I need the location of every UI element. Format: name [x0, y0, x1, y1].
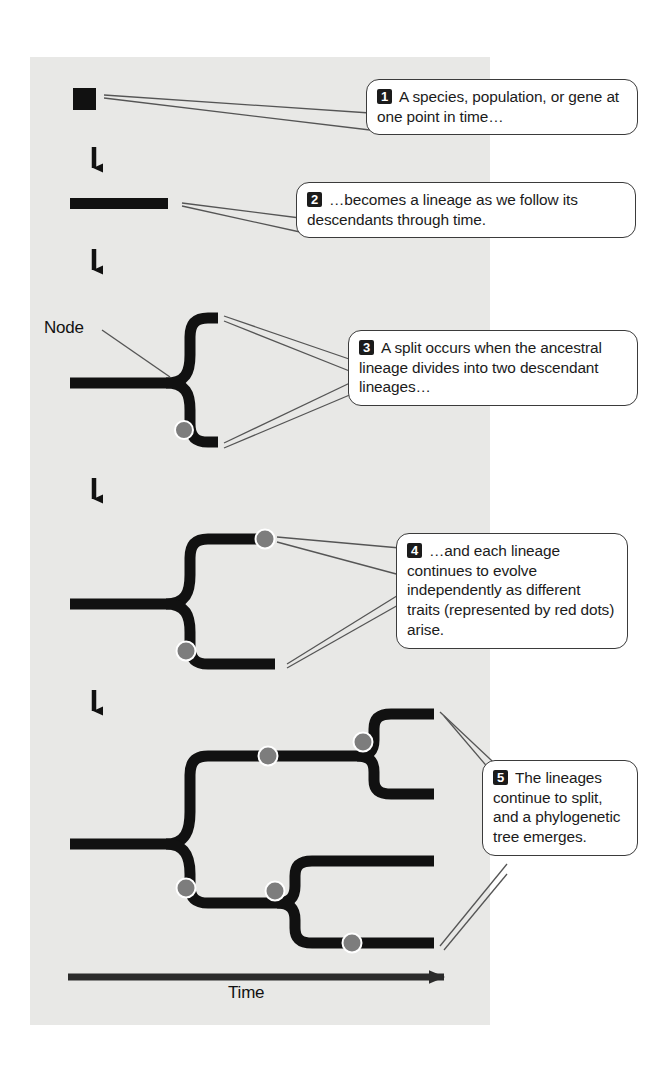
- callout-2-badge: 2: [307, 192, 322, 207]
- descendant-lineage-upper: [166, 318, 218, 383]
- stage-4-trait-evolution: [70, 539, 275, 664]
- trait-dot: [177, 879, 196, 898]
- leader-line: [224, 394, 352, 448]
- leader-lines-callout-2: [182, 203, 300, 232]
- leader-line: [104, 98, 370, 130]
- leader-line: [287, 594, 400, 664]
- stage-5-phylogenetic-tree: [70, 714, 434, 943]
- branch-upper: [166, 756, 357, 844]
- stage-3-first-split: [70, 318, 218, 442]
- leader-line: [224, 382, 352, 443]
- callout-4-text: …and each lineage continues to evolve in…: [407, 542, 614, 638]
- callout-1-badge: 1: [377, 89, 392, 104]
- leader-line: [287, 604, 400, 668]
- stage-1-single-point: [73, 88, 96, 110]
- branch-lower-a: [277, 861, 434, 903]
- leader-lines-callout-1: [104, 95, 370, 130]
- callout-1-text: A species, population, or gene at one po…: [377, 88, 619, 125]
- descendant-lineage-upper: [166, 539, 265, 604]
- leader-line: [224, 316, 352, 360]
- leader-line: [224, 321, 352, 372]
- node-pointer-line: [102, 330, 170, 377]
- callout-4: 4…and each lineage continues to evolve i…: [396, 533, 628, 649]
- stage-2-lineage: [70, 198, 168, 209]
- callout-2-text: …becomes a lineage as we follow its desc…: [307, 191, 578, 228]
- callout-3-badge: 3: [359, 340, 374, 355]
- node-label: Node: [44, 318, 84, 338]
- callout-5-text: The lineages continue to split, and a ph…: [493, 769, 620, 845]
- trait-dot: [354, 733, 373, 752]
- trait-dot: [177, 642, 196, 661]
- leader-lines-callout-3: [224, 316, 352, 448]
- leader-line: [440, 864, 507, 946]
- branch-upper-b: [357, 756, 434, 794]
- callout-3: 3A split occurs when the ancestral linea…: [348, 330, 638, 406]
- phylogeny-figure: Node Time 1A species, population, or gen…: [0, 0, 664, 1066]
- trait-dot: [175, 421, 193, 439]
- callout-2: 2…becomes a lineage as we follow its des…: [296, 182, 636, 238]
- callout-1: 1A species, population, or gene at one p…: [366, 79, 638, 135]
- leader-line: [444, 874, 507, 950]
- trait-dot: [259, 747, 278, 766]
- callout-5-badge: 5: [493, 770, 508, 785]
- callout-4-badge: 4: [407, 543, 422, 558]
- leader-line: [104, 95, 370, 113]
- callout-5: 5The lineages continue to split, and a p…: [482, 760, 638, 856]
- leader-lines-callout-4: [277, 537, 400, 668]
- trait-dot: [266, 882, 285, 901]
- lineage-bar: [70, 198, 168, 209]
- time-axis-label: Time: [228, 983, 264, 1003]
- callout-3-text: A split occurs when the ancestral lineag…: [359, 339, 602, 395]
- origin-square: [73, 88, 96, 110]
- trait-dot: [343, 934, 362, 953]
- trait-dot: [256, 530, 275, 549]
